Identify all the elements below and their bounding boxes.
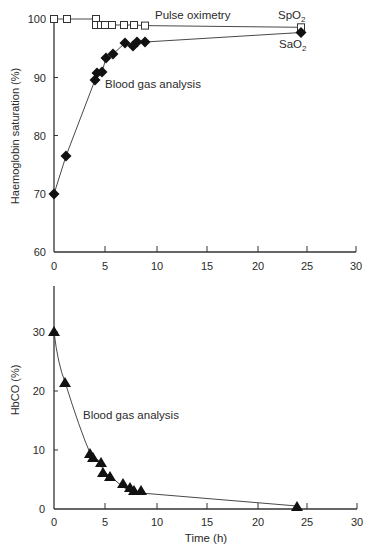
sao2-series bbox=[49, 27, 307, 200]
bottom-y-axis-label: HbCO (%) bbox=[9, 365, 21, 416]
xtick-label: 0 bbox=[51, 260, 57, 272]
ytick-label: 80 bbox=[34, 130, 46, 142]
bottom-x-ticks bbox=[105, 503, 357, 509]
xtick-label: 5 bbox=[102, 260, 108, 272]
blood-gas-label-bottom: Blood gas analysis bbox=[83, 409, 179, 421]
sao2-label: SaO2 bbox=[279, 38, 307, 53]
hbco-chart: 0 10 20 30 0 5 10 15 20 25 30 Time (h) H… bbox=[9, 286, 363, 544]
xtick-label: 15 bbox=[201, 516, 213, 528]
saturation-chart: 60 70 80 90 100 0 5 10 15 20 25 30 Haemo… bbox=[9, 9, 362, 272]
svg-text:SpO2: SpO2 bbox=[278, 9, 306, 24]
open-square-marker bbox=[131, 22, 138, 29]
bottom-x-axis-label: Time (h) bbox=[185, 532, 228, 544]
figure: 60 70 80 90 100 0 5 10 15 20 25 30 Haemo… bbox=[0, 0, 375, 558]
bottom-y-tick-labels: 0 10 20 30 bbox=[33, 326, 45, 515]
xtick-label: 25 bbox=[301, 516, 313, 528]
open-square-marker bbox=[109, 22, 116, 29]
top-x-ticks bbox=[105, 246, 356, 252]
ytick-label: 60 bbox=[34, 246, 46, 258]
xtick-label: 30 bbox=[350, 260, 362, 272]
xtick-label: 20 bbox=[252, 516, 264, 528]
ytick-label: 30 bbox=[33, 326, 45, 338]
filled-triangle-marker bbox=[97, 467, 109, 477]
xtick-label: 15 bbox=[201, 260, 213, 272]
xtick-label: 20 bbox=[252, 260, 264, 272]
xtick-label: 10 bbox=[151, 260, 163, 272]
open-square-marker bbox=[102, 22, 109, 29]
open-square-marker bbox=[121, 22, 128, 29]
open-square-marker bbox=[51, 16, 58, 23]
top-x-tick-labels: 0 5 10 15 20 25 30 bbox=[51, 260, 362, 272]
filled-diamond-marker bbox=[49, 189, 60, 200]
xtick-label: 25 bbox=[301, 260, 313, 272]
ytick-label: 70 bbox=[34, 188, 46, 200]
filled-diamond-marker bbox=[61, 151, 72, 162]
xtick-label: 0 bbox=[51, 516, 57, 528]
svg-text:SaO2: SaO2 bbox=[279, 38, 307, 53]
xtick-label: 10 bbox=[151, 516, 163, 528]
ytick-label: 100 bbox=[28, 13, 46, 25]
bottom-x-tick-labels: 0 5 10 15 20 25 30 bbox=[51, 516, 363, 528]
ytick-label: 0 bbox=[39, 503, 45, 515]
ytick-label: 90 bbox=[34, 72, 46, 84]
open-square-marker bbox=[142, 22, 149, 29]
spo2-label: SpO2 bbox=[278, 9, 306, 24]
xtick-label: 5 bbox=[102, 516, 108, 528]
blood-gas-label-top: Blood gas analysis bbox=[105, 78, 201, 90]
ytick-label: 20 bbox=[33, 385, 45, 397]
filled-diamond-marker bbox=[140, 37, 151, 48]
filled-triangle-marker bbox=[48, 326, 60, 336]
ytick-label: 10 bbox=[33, 444, 45, 456]
pulse-oximetry-label: Pulse oximetry bbox=[155, 9, 231, 21]
xtick-label: 30 bbox=[351, 516, 363, 528]
open-square-marker bbox=[64, 16, 71, 23]
filled-triangle-marker bbox=[59, 377, 71, 387]
top-y-axis-label: Haemoglobin saturation (%) bbox=[9, 68, 21, 204]
top-y-tick-labels: 60 70 80 90 100 bbox=[28, 13, 46, 258]
